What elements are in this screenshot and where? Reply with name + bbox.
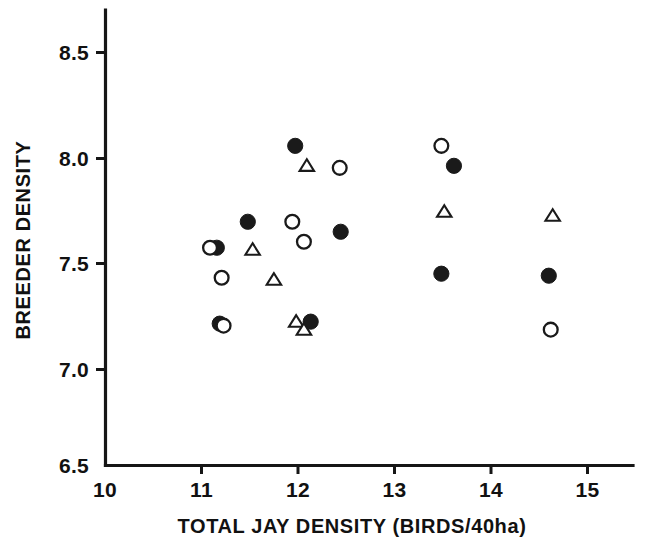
data-point-open-circle [333, 161, 347, 175]
chart-canvas: 8.5 8.0 7.5 7.0 6.5 10 11 12 13 14 15 TO… [0, 0, 651, 550]
data-point-filled-circle [288, 138, 303, 153]
data-point-open-circle [215, 271, 229, 285]
data-points-group [203, 138, 560, 336]
data-point-open-triangle [289, 315, 303, 327]
data-point-filled-circle [446, 158, 461, 173]
x-ticklabel-14: 14 [479, 478, 503, 501]
y-ticklabel-7.5: 7.5 [59, 252, 89, 275]
data-point-open-circle [297, 235, 311, 249]
data-point-open-triangle [245, 243, 259, 255]
x-ticklabel-13: 13 [383, 478, 407, 501]
data-point-open-triangle [545, 209, 559, 221]
data-point-open-triangle [437, 205, 451, 217]
data-point-open-circle [285, 215, 299, 229]
x-ticklabel-10: 10 [93, 478, 117, 501]
y-ticklabel-7.0: 7.0 [59, 358, 89, 381]
data-point-open-circle [544, 323, 558, 337]
data-point-open-triangle [267, 273, 281, 285]
x-axis-tick-labels: 10 11 12 13 14 15 [93, 478, 599, 501]
y-ticklabel-8.5: 8.5 [59, 41, 89, 64]
data-point-open-circle [217, 319, 231, 333]
data-point-open-triangle [300, 159, 314, 171]
y-axis-ticks [96, 53, 105, 370]
x-ticklabel-15: 15 [576, 478, 600, 501]
scatter-plot-figure: 8.5 8.0 7.5 7.0 6.5 10 11 12 13 14 15 TO… [0, 0, 651, 550]
axes-group [106, 10, 634, 466]
data-point-open-circle [203, 241, 217, 255]
x-ticklabel-11: 11 [190, 478, 213, 501]
y-ticklabel-8.0: 8.0 [59, 147, 89, 170]
data-point-filled-circle [541, 268, 556, 283]
data-point-filled-circle [333, 224, 348, 239]
data-point-open-circle [434, 139, 448, 153]
y-axis-tick-labels: 8.5 8.0 7.5 7.0 6.5 [59, 41, 89, 477]
y-axis-title: BREEDER DENSITY [12, 140, 34, 339]
data-point-filled-circle [434, 266, 449, 281]
x-ticklabel-12: 12 [286, 478, 310, 501]
y-ticklabel-6.5: 6.5 [59, 454, 89, 477]
x-axis-title: TOTAL JAY DENSITY (BIRDS/40ha) [178, 515, 527, 537]
data-point-filled-circle [240, 214, 255, 229]
